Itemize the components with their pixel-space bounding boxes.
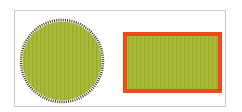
- bordered-rectangle-shape: [125, 34, 220, 91]
- figure-canvas: [0, 0, 242, 112]
- serrated-circle: [21, 20, 103, 102]
- bordered-rectangle: [125, 34, 220, 91]
- serrated-circle-fill: [22, 21, 101, 100]
